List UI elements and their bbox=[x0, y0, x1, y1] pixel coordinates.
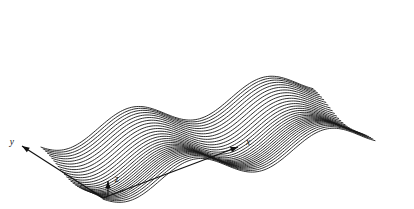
axis-label-y: y bbox=[9, 137, 15, 147]
axes-group: xyz bbox=[9, 137, 251, 198]
axis-label-z: z bbox=[114, 174, 119, 184]
axis-arrowhead-y bbox=[22, 146, 30, 152]
mesh-curve-group bbox=[41, 76, 375, 202]
wave-surface-plot: xyz bbox=[0, 0, 414, 209]
figure-root: xyz bbox=[0, 0, 414, 209]
mesh-curve bbox=[43, 78, 315, 152]
axis-label-x: x bbox=[245, 137, 251, 147]
